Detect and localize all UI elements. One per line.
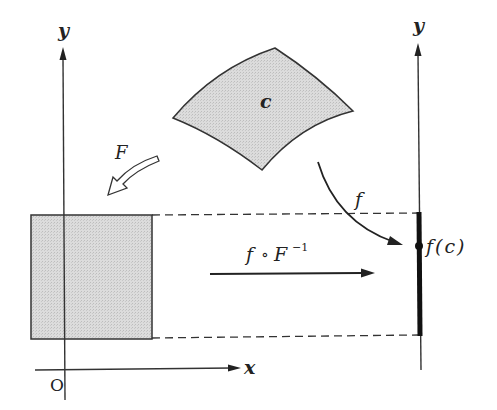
domain-square — [31, 215, 152, 339]
left-y-axis-label: y — [57, 19, 71, 41]
arrowhead-icon — [228, 365, 241, 372]
composite-map-label: f ∘ F −1 — [244, 241, 308, 265]
arrowhead-icon — [60, 47, 67, 60]
image-point-label: f(c) — [424, 235, 467, 257]
region-c-label: c — [260, 90, 272, 112]
composite-map-arrow — [210, 269, 375, 278]
composite-exponent: −1 — [292, 241, 308, 254]
diagram-canvas: y x O c F f f ∘ F −1 y f(c) — [0, 0, 497, 410]
composite-f: f — [244, 243, 256, 265]
composite-circ: ∘ — [261, 245, 269, 264]
mapping-F-label: F — [114, 142, 129, 163]
image-point-dot — [415, 242, 423, 250]
origin-label: O — [50, 375, 64, 395]
arrowhead-icon — [415, 43, 422, 56]
arrowhead-icon — [387, 236, 403, 245]
arrowhead-icon — [361, 269, 375, 278]
image-segment — [419, 212, 420, 336]
bottom-dashed-line — [152, 335, 418, 338]
mapping-f-label: f — [353, 188, 365, 210]
composite-F: F — [273, 243, 288, 265]
top-dashed-line — [152, 213, 418, 215]
x-axis-label: x — [243, 356, 256, 378]
x-axis — [35, 365, 241, 372]
right-y-axis-label: y — [412, 14, 426, 36]
